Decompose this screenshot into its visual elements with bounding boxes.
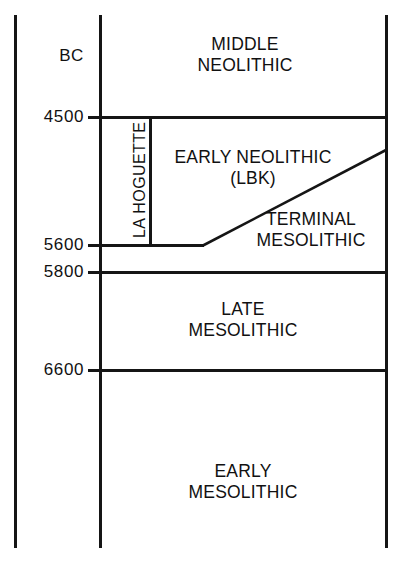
scale-tick-5600	[88, 244, 100, 247]
period-label-terminal-mesolithic: TERMINAL MESOLITHIC	[238, 209, 384, 251]
early-neolithic-line1: EARLY NEOLITHIC	[175, 147, 332, 167]
scale-tick-5800	[88, 271, 100, 274]
scale-unit-label: BC	[20, 46, 84, 66]
period-label-early-mesolithic: EARLY MESOLITHIC	[153, 461, 333, 503]
early-neolithic-line2: (LBK)	[158, 168, 348, 189]
boundary-line-4500	[99, 116, 387, 119]
scale-tick-6600	[88, 369, 100, 372]
period-label-la-hoguette: LA HOGUETTE	[131, 122, 149, 238]
late-mesolithic-line1: LATE	[221, 299, 264, 319]
chart-right-border	[385, 15, 388, 548]
period-label-middle-neolithic: MIDDLE NEOLITHIC	[155, 34, 335, 76]
middle-neolithic-line1: MIDDLE	[211, 34, 278, 54]
la-hoguette-right-border	[149, 116, 152, 247]
scale-label-4500: 4500	[20, 107, 84, 127]
period-label-early-neolithic: EARLY NEOLITHIC (LBK)	[158, 147, 348, 189]
scale-axis-line	[14, 15, 17, 548]
terminal-mesolithic-line1: TERMINAL	[266, 209, 356, 229]
scale-label-5800: 5800	[20, 262, 84, 282]
terminal-mesolithic-line2: MESOLITHIC	[238, 230, 384, 251]
chronology-chart: BC 4500 5600 5800 6600 MIDDLE NEOLITHIC …	[0, 0, 405, 561]
early-mesolithic-line2: MESOLITHIC	[153, 482, 333, 503]
scale-tick-4500	[88, 116, 100, 119]
boundary-line-6600	[99, 369, 387, 372]
chart-left-border	[99, 15, 102, 548]
period-label-late-mesolithic: LATE MESOLITHIC	[153, 299, 333, 341]
scale-label-5600: 5600	[20, 235, 84, 255]
boundary-line-5800	[99, 271, 387, 274]
middle-neolithic-line2: NEOLITHIC	[155, 55, 335, 76]
scale-label-6600: 6600	[20, 360, 84, 380]
late-mesolithic-line2: MESOLITHIC	[153, 320, 333, 341]
early-mesolithic-line1: EARLY	[214, 461, 271, 481]
